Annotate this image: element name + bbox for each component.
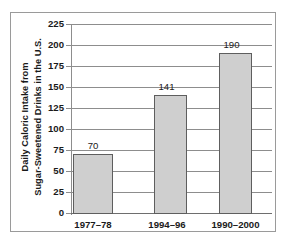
- bar-value-label-1: 70: [73, 140, 113, 151]
- bar-1990-2000[interactable]: [219, 53, 252, 214]
- y-tick-label-175: 175: [40, 61, 64, 71]
- y-tick-label-200: 200: [40, 40, 64, 50]
- chart-figure: Daily Caloric Intake from Sugar-Sweetene…: [0, 0, 287, 241]
- y-tick-label-225: 225: [40, 19, 64, 29]
- x-category-label-3: 1990–2000: [203, 219, 268, 230]
- bar-value-label-2: 141: [134, 81, 199, 92]
- y-tick-label-150: 150: [40, 82, 64, 92]
- x-category-label-1: 1977–78: [63, 219, 123, 230]
- y-axis-tick-labels: 225 200 175 150 125 100 75 50 25 0: [39, 0, 64, 241]
- y-tick-label-100: 100: [40, 124, 64, 134]
- y-tick-label-25: 25: [40, 187, 64, 197]
- y-tick-label-0: 0: [40, 208, 64, 218]
- y-tick-label-125: 125: [40, 103, 64, 113]
- gridline-225: [71, 24, 272, 25]
- plot-area: [71, 24, 272, 214]
- bar-1994-96[interactable]: [154, 95, 187, 214]
- bar-value-label-3: 190: [199, 39, 264, 50]
- y-tick-label-50: 50: [40, 166, 64, 176]
- x-category-label-2: 1994–96: [137, 219, 197, 230]
- bar-1977-78[interactable]: [73, 154, 113, 214]
- y-tick-label-75: 75: [40, 145, 64, 155]
- y-axis-title-line-1: Daily Caloric Intake from: [19, 38, 32, 196]
